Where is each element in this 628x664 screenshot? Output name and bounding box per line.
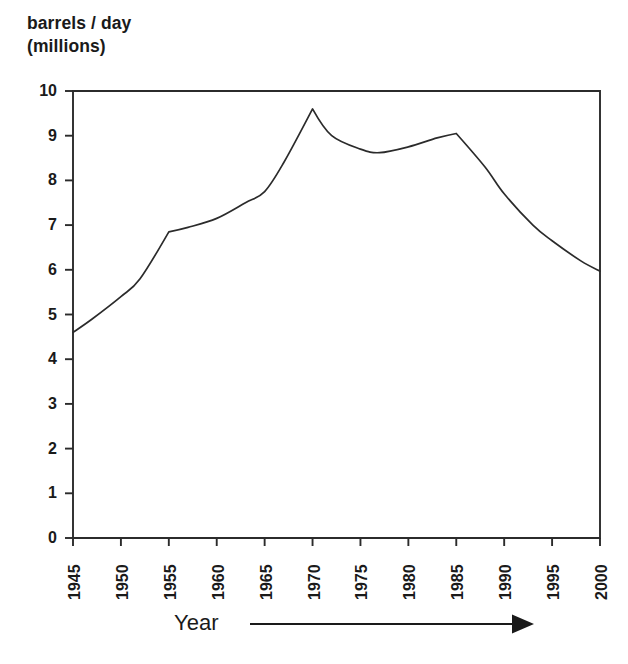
chart-figure: barrels / day (millions) 012345678910 19… xyxy=(0,0,628,664)
axis-ticks xyxy=(65,91,600,546)
x-tick-label: 1990 xyxy=(498,564,514,600)
y-tick-label: 7 xyxy=(23,217,57,233)
y-axis-title: barrels / day (millions) xyxy=(27,12,131,58)
y-tick-label: 10 xyxy=(23,83,57,99)
x-tick-label: 1945 xyxy=(67,564,83,600)
y-tick-label: 2 xyxy=(23,441,57,457)
y-tick-label: 8 xyxy=(23,172,57,188)
y-tick-label: 5 xyxy=(23,307,57,323)
axis-frame xyxy=(73,91,600,538)
x-tick-label: 1995 xyxy=(546,564,562,600)
x-tick-label: 1955 xyxy=(163,564,179,600)
x-tick-label: 1950 xyxy=(115,564,131,600)
data-series-line xyxy=(73,109,600,333)
y-tick-label: 4 xyxy=(23,351,57,367)
y-tick-label: 1 xyxy=(23,485,57,501)
x-axis-direction-arrow xyxy=(250,615,534,634)
x-tick-label: 2000 xyxy=(594,564,610,600)
y-tick-label: 6 xyxy=(23,262,57,278)
x-tick-label: 1975 xyxy=(354,564,370,600)
x-axis-label: Year xyxy=(174,612,218,634)
x-tick-label: 1980 xyxy=(402,564,418,600)
y-tick-label: 3 xyxy=(23,396,57,412)
x-tick-label: 1985 xyxy=(450,564,466,600)
y-tick-label: 0 xyxy=(23,530,57,546)
x-tick-label: 1965 xyxy=(259,564,275,600)
y-tick-label: 9 xyxy=(23,128,57,144)
x-tick-label: 1970 xyxy=(307,564,323,600)
x-tick-label: 1960 xyxy=(211,564,227,600)
